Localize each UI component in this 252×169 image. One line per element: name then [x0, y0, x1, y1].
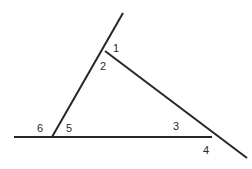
geometry-figure: 1 2 3 4 5 6	[0, 0, 252, 169]
angle-label-2: 2	[100, 61, 106, 72]
right-side-with-extension	[105, 51, 247, 158]
angle-label-6: 6	[37, 123, 43, 134]
angle-label-1: 1	[113, 43, 119, 54]
left-side-with-extension	[52, 13, 123, 137]
angle-label-4: 4	[203, 145, 209, 156]
angle-label-3: 3	[173, 121, 179, 132]
figure-line-art	[0, 0, 252, 169]
angle-label-5: 5	[66, 123, 72, 134]
